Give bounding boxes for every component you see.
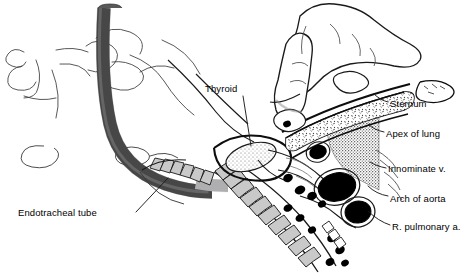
trachea (140, 158, 336, 272)
label-endotracheal-tube: Endotracheal tube (18, 208, 97, 218)
index-finger (274, 33, 312, 119)
label-arch-of-aorta: Arch of aorta (390, 194, 446, 204)
anatomy-illustration (0, 0, 473, 279)
anatomy-figure: Thyroid Sternum Apex of lung Innominate … (0, 0, 473, 279)
label-sternum: Sternum (390, 99, 427, 109)
label-innominate-vein: Innominate v. (388, 164, 446, 174)
body-outline (168, 60, 254, 142)
label-thyroid: Thyroid (205, 84, 237, 94)
label-right-pulmonary-artery: R. pulmonary a. (392, 222, 461, 232)
label-apex-of-lung: Apex of lung (386, 129, 440, 139)
